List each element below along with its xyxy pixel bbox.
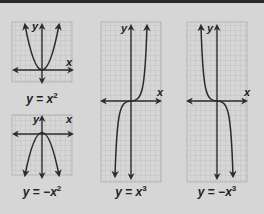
caption-cubic-up: y = x3 <box>115 184 147 199</box>
x-axis-label: x <box>66 56 72 68</box>
y-axis-label: y <box>32 20 38 32</box>
graph-parabola-down <box>12 115 72 177</box>
x-axis-label: x <box>244 86 250 98</box>
graph-cubic-down <box>187 22 247 182</box>
y-axis-label: y <box>33 113 39 125</box>
graph-cubic-up <box>101 22 161 182</box>
x-axis-label: x <box>157 86 163 98</box>
x-axis-label: x <box>66 113 72 125</box>
y-axis-label: y <box>121 22 127 34</box>
caption-parabola-up: y = x2 <box>26 91 58 106</box>
caption-parabola-down: y = −x2 <box>23 184 62 199</box>
caption-cubic-down: y = −x3 <box>198 184 237 199</box>
y-axis-label: y <box>207 22 213 34</box>
function-graphs-figure <box>0 0 264 214</box>
graph-parabola-up <box>12 22 72 82</box>
